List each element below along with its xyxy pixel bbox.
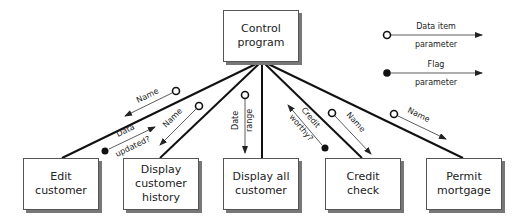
legend: Data item parameter Flag parameter (383, 22, 482, 87)
label-all-date-1: Date (231, 111, 240, 130)
legend-data-item-bottom: parameter (415, 40, 458, 49)
label-all-date-2: range (245, 109, 254, 132)
data-couple-icon (329, 110, 336, 117)
legend-data-item-icon (384, 32, 391, 39)
label-credit-name: Name (345, 110, 368, 134)
connector-lines (62, 61, 463, 158)
legend-flag-bottom: parameter (415, 78, 458, 87)
module-permit-mortgage: Permit mortgage (426, 158, 502, 210)
param-edit-flag: Data updated? (102, 122, 156, 159)
module-display-all-customer: Display all customer (223, 158, 299, 210)
legend-data-item-top: Data item (416, 22, 456, 31)
flag-couple-icon (322, 145, 329, 152)
data-couple-icon (196, 103, 203, 110)
label-edit-flag-1: Data (115, 122, 136, 139)
param-permit-name: Name (391, 106, 447, 139)
param-credit-flag: Credit worthy? (287, 105, 328, 152)
flag-couple-icon (102, 148, 109, 155)
data-couple-icon (173, 88, 180, 95)
label-history-name: Name (161, 106, 184, 129)
line-to-credit-check (262, 61, 362, 158)
param-all-date: Date range (231, 92, 254, 154)
legend-flag-top: Flag (428, 60, 445, 69)
module-display-customer-history: Display customer history (123, 158, 199, 210)
module-credit-check: Credit check (325, 158, 401, 210)
data-couple-icon (391, 111, 398, 118)
data-couple-icon (242, 92, 249, 99)
legend-flag-icon (383, 69, 391, 77)
module-edit-customer: Edit customer (23, 158, 99, 210)
label-edit-name: Name (135, 86, 160, 104)
module-control-program: Control program (223, 10, 299, 62)
